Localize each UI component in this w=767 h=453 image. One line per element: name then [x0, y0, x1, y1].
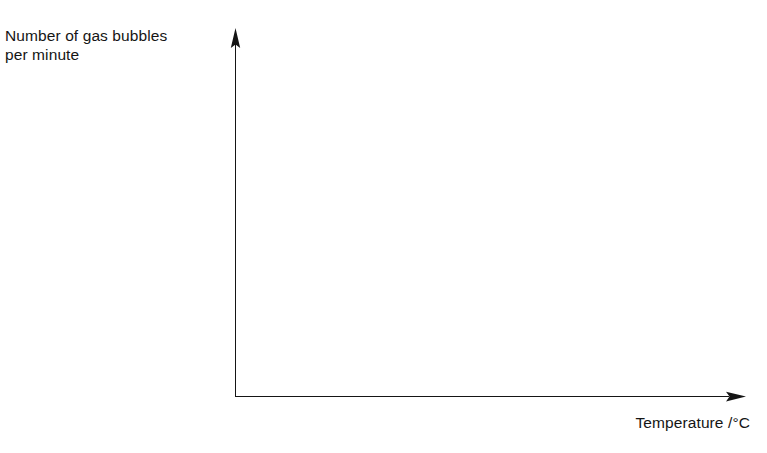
x-axis-label-text: Temperature /: [635, 414, 732, 431]
graph-figure: Number of gas bubbles per minute Tempera…: [0, 0, 767, 453]
x-axis-label: Temperature /°C: [560, 414, 750, 433]
y-axis-label: Number of gas bubbles per minute: [5, 27, 220, 64]
degree-celsius-unit: °C: [732, 414, 750, 431]
plot-area: [237, 30, 743, 396]
